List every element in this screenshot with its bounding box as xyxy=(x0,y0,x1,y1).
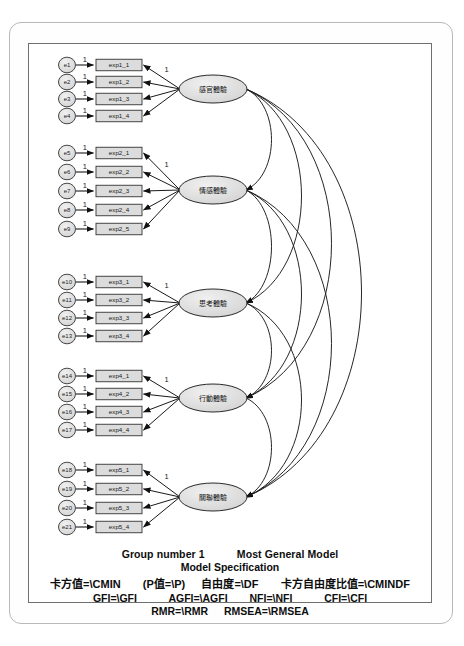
sem-diagram-page: e11exp1_1e21exp1_2e31exp1_3e41exp1_4e51e… xyxy=(0,0,464,646)
error-variance-fixed-one: 1 xyxy=(83,402,87,411)
cfi-label: CFI=\CFI xyxy=(324,592,367,604)
latent-factor-group[interactable]: 感官體驗情感體驗思考體驗行動體驗關聯體驗 xyxy=(179,75,247,511)
observed-variable-label: exp2_1 xyxy=(109,149,130,156)
fixed-loading-one: 1 xyxy=(164,472,168,481)
observed-variable-label: exp5_1 xyxy=(109,466,130,473)
error-variance-fixed-one: 1 xyxy=(83,384,87,393)
fixed-loading-one: 1 xyxy=(164,375,168,384)
loading-arrow xyxy=(144,497,181,508)
error-variance-fixed-one: 1 xyxy=(83,460,87,469)
error-term-label: e19 xyxy=(62,486,73,492)
error-variance-fixed-one: 1 xyxy=(83,143,87,152)
error-variance-fixed-one: 1 xyxy=(83,498,87,507)
latent-factor-label: 情感體驗 xyxy=(199,186,227,195)
observed-variable-label: exp1_4 xyxy=(109,112,130,119)
observed-variable-label: exp5_4 xyxy=(109,523,130,530)
group-number-label: Group number 1 xyxy=(122,548,205,560)
loading-arrow xyxy=(144,303,181,336)
error-term-label: e7 xyxy=(64,188,71,194)
error-variance-fixed-one: 1 xyxy=(83,181,87,190)
error-variance-fixed-one: 1 xyxy=(83,200,87,209)
error-variance-fixed-one: 1 xyxy=(83,366,87,375)
gfi-label: GFI=\GFI xyxy=(93,592,137,604)
error-term-label: e8 xyxy=(64,207,71,213)
latent-factor-label: 關聯體驗 xyxy=(199,493,227,502)
observed-variable-label: exp3_2 xyxy=(109,296,130,303)
error-variance-fixed-one: 1 xyxy=(83,272,87,281)
latent-factor-label: 感官體驗 xyxy=(199,85,227,94)
error-term-label: e16 xyxy=(62,409,73,415)
loading-arrow xyxy=(144,190,181,210)
error-term-label: e12 xyxy=(62,315,73,321)
observed-variable-label: exp2_5 xyxy=(109,225,130,232)
rmr-label: RMR=\RMR xyxy=(151,605,208,617)
observed-variable-label: exp5_3 xyxy=(109,504,130,511)
loading-arrow xyxy=(144,497,181,527)
agfi-label: AGFI=\AGFI xyxy=(168,592,227,604)
covariance-arc-F2-F3 xyxy=(246,190,272,303)
latent-factor-label: 思考體驗 xyxy=(199,299,227,308)
loading-arrow xyxy=(144,172,181,190)
factor-loading-arrows xyxy=(144,65,181,527)
covariance-arc-F4-F5 xyxy=(246,398,272,497)
error-term-label: e9 xyxy=(64,226,71,232)
error-term-label: e21 xyxy=(62,524,73,530)
error-term-label: e3 xyxy=(64,96,71,102)
loading-arrow xyxy=(144,398,181,412)
fixed-loading-one: 1 xyxy=(164,160,168,169)
error-variance-fixed-one: 1 xyxy=(83,89,87,98)
indicator-group[interactable]: e11exp1_1e21exp1_2e31exp1_3e41exp1_4e51e… xyxy=(59,55,143,535)
observed-variable-label: exp2_4 xyxy=(109,206,130,213)
loading-arrow xyxy=(144,398,181,430)
error-variance-fixed-one: 1 xyxy=(83,106,87,115)
covariance-arc-F3-F5 xyxy=(246,303,302,497)
nfi-label: NFI=\NFI xyxy=(249,592,292,604)
error-variance-fixed-one: 1 xyxy=(83,308,87,317)
fixed-loading-one: 1 xyxy=(164,281,168,290)
error-variance-fixed-one: 1 xyxy=(83,55,87,64)
error-term-label: e10 xyxy=(62,279,73,285)
error-term-label: e14 xyxy=(62,373,73,379)
latent-factor-label: 行動體驗 xyxy=(199,394,227,403)
error-variance-fixed-one: 1 xyxy=(83,162,87,171)
observed-variable-label: exp1_2 xyxy=(109,78,130,85)
observed-variable-label: exp4_2 xyxy=(109,390,130,397)
loading-arrow xyxy=(144,89,181,99)
covariance-arc-F1-F5 xyxy=(246,89,362,497)
observed-variable-label: exp3_1 xyxy=(109,278,130,285)
observed-variable-label: exp2_2 xyxy=(109,168,130,175)
error-variance-fixed-one: 1 xyxy=(83,219,87,228)
fixed-loading-one: 1 xyxy=(164,65,168,74)
covariance-arcs xyxy=(246,89,362,497)
error-term-label: e17 xyxy=(62,427,73,433)
covariance-arc-F2-F4 xyxy=(246,190,302,398)
rmsea-label: RMSEA=\RMSEA xyxy=(224,605,309,617)
fixed-loading-labels: 11111 xyxy=(164,65,168,481)
observed-variable-label: exp4_4 xyxy=(109,426,130,433)
observed-variable-label: exp1_1 xyxy=(109,61,130,68)
observed-variable-label: exp3_3 xyxy=(109,314,130,321)
loading-arrow xyxy=(144,89,181,116)
observed-variable-label: exp5_2 xyxy=(109,485,130,492)
loading-arrow xyxy=(144,303,181,318)
error-term-label: e4 xyxy=(64,113,71,119)
observed-variable-label: exp3_4 xyxy=(109,332,130,339)
error-variance-fixed-one: 1 xyxy=(83,420,87,429)
observed-variable-label: exp4_3 xyxy=(109,408,130,415)
error-variance-fixed-one: 1 xyxy=(83,479,87,488)
footer-text-block: Group number 1 Most General Model Model … xyxy=(28,548,432,617)
observed-variable-label: exp2_3 xyxy=(109,187,130,194)
error-term-label: e18 xyxy=(62,467,73,473)
model-specification-label: Model Specification xyxy=(28,561,432,573)
loading-arrow xyxy=(144,282,181,303)
error-term-label: e6 xyxy=(64,169,71,175)
loading-arrow xyxy=(144,300,181,303)
error-variance-fixed-one: 1 xyxy=(83,326,87,335)
loading-arrow xyxy=(144,153,181,190)
error-term-label: e20 xyxy=(62,505,73,511)
loading-arrow xyxy=(144,190,181,191)
chi-df-ratio-label: 卡方自由度比值=\CMINDF xyxy=(281,578,410,590)
chi-square-label: 卡方值=\CMIN xyxy=(50,578,121,590)
error-variance-fixed-one: 1 xyxy=(83,290,87,299)
error-term-label: e15 xyxy=(62,391,73,397)
